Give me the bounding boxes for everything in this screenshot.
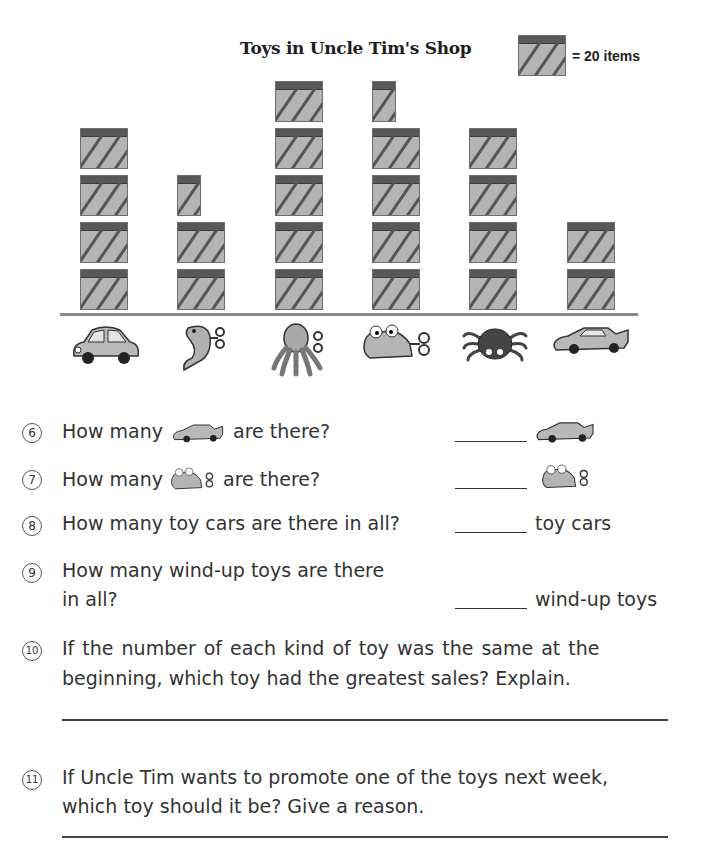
pictograph-symbol [275,222,323,263]
question-text: are there? [233,420,330,442]
race-car-icon [169,421,227,445]
pictograph-symbol [469,175,517,216]
question-text: are there? [223,468,320,490]
legend-label: = 20 items [572,48,640,64]
race-car-icon [534,418,596,446]
question-text: How many [62,420,163,442]
pictograph-symbol [80,175,128,216]
chart-title: Toys in Uncle Tim's Shop [240,38,471,58]
pictograph-symbol-half [372,81,396,122]
pictograph-symbol [275,269,323,310]
question-11-line2: which toy should it be? Give a reason. [62,795,424,817]
pictograph-symbol [80,128,128,169]
pictograph-symbol [275,128,323,169]
pictograph-symbol [372,128,420,169]
frog-icon [169,466,217,494]
pictograph-symbol-half [177,175,201,216]
question-9-line1: How many wind-up toys are there [62,559,384,581]
pictograph-symbol [469,128,517,169]
pictograph-symbol [80,222,128,263]
question-11-line1: If Uncle Tim wants to promote one of the… [62,766,608,788]
pictograph-symbol [275,175,323,216]
pictograph-symbol [177,222,225,263]
question-number: 9 [22,563,42,583]
spider-icon [462,322,542,372]
race-car-icon [550,322,630,372]
question-9-line2: in all? [62,588,118,610]
question-text: How many [62,468,163,490]
question-10-line1: If the number of each kind of toy was th… [62,637,600,659]
pictograph-symbol [177,269,225,310]
pictograph-symbol [469,269,517,310]
pictograph-symbol [567,269,615,310]
frog-icon [540,462,592,494]
baseline [60,313,638,316]
pictograph-symbol [567,222,615,263]
frog-icon [360,322,440,372]
answer-line-11[interactable] [62,836,668,838]
question-number: 8 [22,516,42,536]
question-number: 6 [22,423,42,443]
car-icon [68,322,148,372]
answer-blank-6[interactable] [455,441,527,442]
pictograph-symbol [275,81,323,122]
legend-box-icon [518,35,566,76]
pictograph-symbol [372,269,420,310]
question-10-line2: beginning, which toy had the greatest sa… [62,667,571,689]
legend: = 20 items [518,35,640,76]
fish-icon [176,322,256,372]
question-6: How many are there? [62,420,330,445]
question-number: 10 [22,641,42,661]
octopus-icon [270,322,350,372]
answer-line-10[interactable] [62,719,668,721]
answer-blank-8[interactable] [455,532,527,533]
question-8: How many toy cars are there in all? [62,512,400,534]
answer-blank-9[interactable] [455,608,527,609]
pictograph-symbol [372,175,420,216]
pictograph-symbol [372,222,420,263]
pictograph-symbol [469,222,517,263]
question-number: 11 [22,770,42,790]
answer-unit-9: wind-up toys [535,588,657,610]
answer-blank-7[interactable] [455,488,527,489]
answer-unit-8: toy cars [535,512,611,534]
question-number: 7 [22,470,42,490]
question-7: How many are there? [62,466,320,494]
pictograph-symbol [80,269,128,310]
